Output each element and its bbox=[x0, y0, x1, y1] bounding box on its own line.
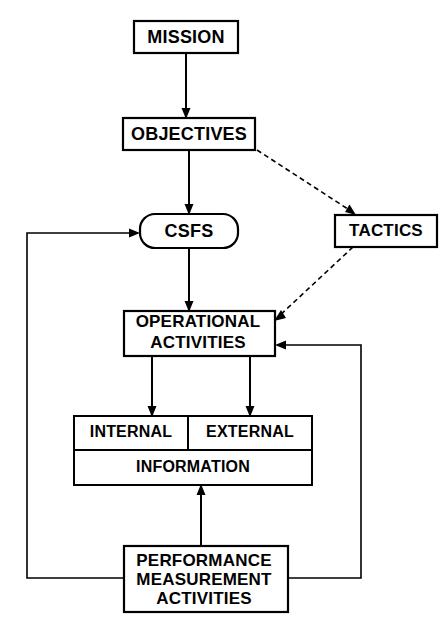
flowchart-diagram: MISSION OBJECTIVES CSFS TACTICS OPERATIO… bbox=[0, 0, 448, 634]
edge-pma-to-information bbox=[197, 484, 206, 546]
node-performance-measurement-activities[interactable]: PERFORMANCE MEASUREMENT ACTIVITIES bbox=[124, 546, 288, 612]
edge-mission-to-objectives bbox=[182, 53, 191, 119]
internal-label: INTERNAL bbox=[90, 423, 173, 440]
node-information-table[interactable]: INTERNAL EXTERNAL INFORMATION bbox=[74, 416, 312, 485]
external-label: EXTERNAL bbox=[206, 423, 294, 440]
pma-label-line1: PERFORMANCE bbox=[136, 551, 271, 570]
flowchart-canvas: MISSION OBJECTIVES CSFS TACTICS OPERATIO… bbox=[0, 0, 448, 634]
operational-activities-label-line1: OPERATIONAL bbox=[136, 312, 261, 331]
edge-operational-activities-to-external bbox=[246, 356, 255, 417]
edge-csfs-to-operational-activities bbox=[185, 248, 194, 312]
edge-tactics-to-operational-activities bbox=[274, 247, 353, 321]
edge-pma-feedback-to-csfs bbox=[27, 229, 140, 579]
information-label: INFORMATION bbox=[136, 458, 250, 475]
edge-operational-activities-to-internal bbox=[148, 356, 157, 417]
node-csfs[interactable]: CSFS bbox=[140, 214, 238, 248]
edge-objectives-to-csfs bbox=[185, 150, 194, 215]
edge-objectives-to-tactics bbox=[257, 150, 356, 215]
node-objectives[interactable]: OBJECTIVES bbox=[123, 118, 255, 150]
pma-label-line2: MEASUREMENT bbox=[136, 570, 272, 589]
node-mission[interactable]: MISSION bbox=[134, 21, 238, 53]
pma-label-line3: ACTIVITIES bbox=[156, 589, 252, 608]
csfs-label: CSFS bbox=[165, 221, 214, 241]
mission-label: MISSION bbox=[147, 27, 224, 47]
node-operational-activities[interactable]: OPERATIONAL ACTIVITIES bbox=[124, 311, 275, 356]
operational-activities-label-line2: ACTIVITIES bbox=[150, 333, 246, 352]
node-tactics[interactable]: TACTICS bbox=[335, 215, 437, 247]
tactics-label: TACTICS bbox=[349, 221, 423, 240]
objectives-label: OBJECTIVES bbox=[131, 124, 247, 144]
